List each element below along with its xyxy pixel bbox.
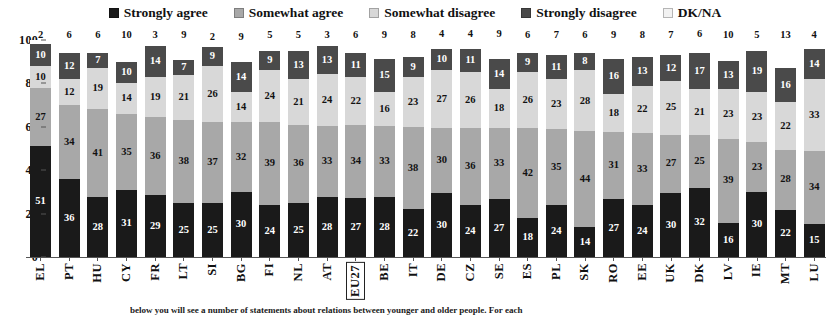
bar-segment: 15: [804, 224, 825, 257]
bar-segment-value: 16: [780, 80, 791, 91]
bar-column-sk[interactable]: 14442886: [574, 40, 595, 257]
bar-segment-value: 24: [322, 95, 333, 106]
bar-segment: 25: [288, 203, 309, 257]
bar-column-bg[interactable]: 303214149: [231, 40, 252, 257]
bar-column-it[interactable]: 22382398: [403, 40, 424, 257]
bar-segment-value: 38: [408, 163, 419, 174]
x-axis-label-slot: DK: [689, 262, 710, 307]
bar-segment-value: 14: [580, 237, 591, 248]
bar-segment-value: 18: [494, 103, 505, 114]
bar-column-fi[interactable]: 24392495: [259, 40, 280, 257]
bar-segment-value: 14: [236, 72, 247, 83]
bar-segment: 14: [574, 227, 595, 257]
bar-segment-value: 10: [723, 30, 734, 41]
bar-segment-value: 14: [236, 102, 247, 113]
x-axis-label-slot: EU27: [345, 262, 366, 307]
bar-column-si[interactable]: 25372692: [202, 40, 223, 257]
x-axis-label-slot: IE: [746, 262, 767, 307]
bar-segment: 14: [804, 49, 825, 79]
x-axis-tick-mark: [642, 257, 643, 261]
bar-segment-value: 24: [465, 226, 476, 237]
x-axis-label-slot: NL: [288, 262, 309, 307]
bar-segment-value: 9: [611, 30, 616, 41]
bar-segment-value: 26: [207, 89, 218, 100]
bar-segment-value: 14: [121, 93, 132, 104]
legend-item-strongly_agree: Strongly agree: [109, 6, 208, 20]
x-axis-label-slot: LV: [718, 262, 739, 307]
bar-column-se[interactable]: 273318149: [489, 40, 510, 257]
bar-segment-value: 36: [465, 161, 476, 172]
x-axis-tick-mark: [212, 257, 213, 261]
bar-segment: 9: [259, 51, 280, 70]
bar-segment-value: 25: [293, 225, 304, 236]
bar-segment-value: 28: [322, 222, 333, 233]
bar-column-fr[interactable]: 293619143: [145, 40, 166, 257]
bar-segment: 16: [775, 68, 796, 102]
bar-segment: 23: [746, 92, 767, 142]
bar-segment-value: 33: [322, 156, 333, 167]
x-axis-label-slot: UK: [660, 262, 681, 307]
bar-segment: 14: [116, 83, 137, 113]
bar-column-cy[interactable]: 3135141010: [116, 40, 137, 257]
bar-segment-value: 25: [179, 225, 190, 236]
bar-column-el[interactable]: 512710102: [30, 40, 51, 257]
bar-segment: 24: [259, 70, 280, 122]
x-axis-label-es: ES: [519, 262, 536, 280]
x-axis-label-fi: FI: [261, 262, 278, 278]
bar-segment-value: 16: [379, 104, 390, 115]
bar-segment: 3: [317, 40, 338, 46]
bar-column-dk[interactable]: 322521176: [689, 40, 710, 257]
bar-column-lt[interactable]: 25382179: [173, 40, 194, 257]
bar-segment-value: 24: [637, 226, 648, 237]
bar-segment-value: 39: [265, 158, 276, 169]
bar-column-lu[interactable]: 153433144: [804, 40, 825, 257]
bar-segment: 16: [718, 223, 739, 257]
bar-segment: 19: [87, 68, 108, 109]
bar-column-es[interactable]: 18422696: [517, 40, 538, 257]
bar-column-de[interactable]: 303027104: [431, 40, 452, 257]
bar-segment-value: 28: [780, 174, 791, 185]
bar-segment-value: 7: [95, 55, 100, 66]
bar-segment: 7: [87, 53, 108, 68]
bar-segment-value: 18: [522, 232, 533, 243]
bar-column-at[interactable]: 283324133: [317, 40, 338, 257]
bar-segment-value: 4: [439, 29, 444, 40]
bar-segment: 6: [574, 40, 595, 53]
bar-column-uk[interactable]: 302725127: [660, 40, 681, 257]
bar-column-hu[interactable]: 28411976: [87, 40, 108, 257]
bar-column-be[interactable]: 283316159: [374, 40, 395, 257]
bar-column-lv[interactable]: 1639231310: [718, 40, 739, 257]
bar-column-pl[interactable]: 243523117: [546, 40, 567, 257]
chart-caption: below you will see a number of statement…: [130, 306, 830, 316]
bar-segment-value: 38: [179, 156, 190, 167]
bar-segment-value: 17: [694, 66, 705, 77]
bar-segment: 27: [431, 70, 452, 128]
bar-segment: 9: [517, 53, 538, 72]
bar-segment-value: 34: [809, 182, 820, 193]
bar-segment-value: 9: [525, 57, 530, 68]
bar-column-ee[interactable]: 243322138: [632, 40, 653, 257]
bar-column-mt[interactable]: 2228221613: [775, 40, 796, 257]
bar-segment: 38: [403, 127, 424, 209]
legend-item-label: DK/NA: [678, 6, 722, 20]
bar-segment: 13: [288, 51, 309, 79]
bar-segment: 33: [632, 133, 653, 205]
bar-segment: 36: [59, 179, 80, 257]
legend-item-somewhat_disagree: Somewhat disagree: [369, 6, 495, 20]
bar-segment-value: 10: [121, 30, 132, 41]
bar-column-ie[interactable]: 302323195: [746, 40, 767, 257]
bar-segment-value: 3: [324, 30, 329, 41]
bar-segment-value: 26: [465, 95, 476, 106]
bar-column-ro[interactable]: 273118169: [603, 40, 624, 257]
bar-segment-value: 51: [35, 196, 46, 207]
bar-segment: 14: [489, 59, 510, 89]
bar-segment: 36: [288, 125, 309, 203]
legend-swatch-icon: [521, 8, 531, 18]
bar-column-pt[interactable]: 363412126: [59, 40, 80, 257]
bar-segment-value: 10: [121, 67, 132, 78]
bar-column-cz[interactable]: 243626114: [460, 40, 481, 257]
bar-column-nl[interactable]: 253621135: [288, 40, 309, 257]
bar-segment: 30: [231, 192, 252, 257]
bar-segment-value: 16: [608, 71, 619, 82]
bar-column-eu27[interactable]: 273422116: [345, 40, 366, 257]
